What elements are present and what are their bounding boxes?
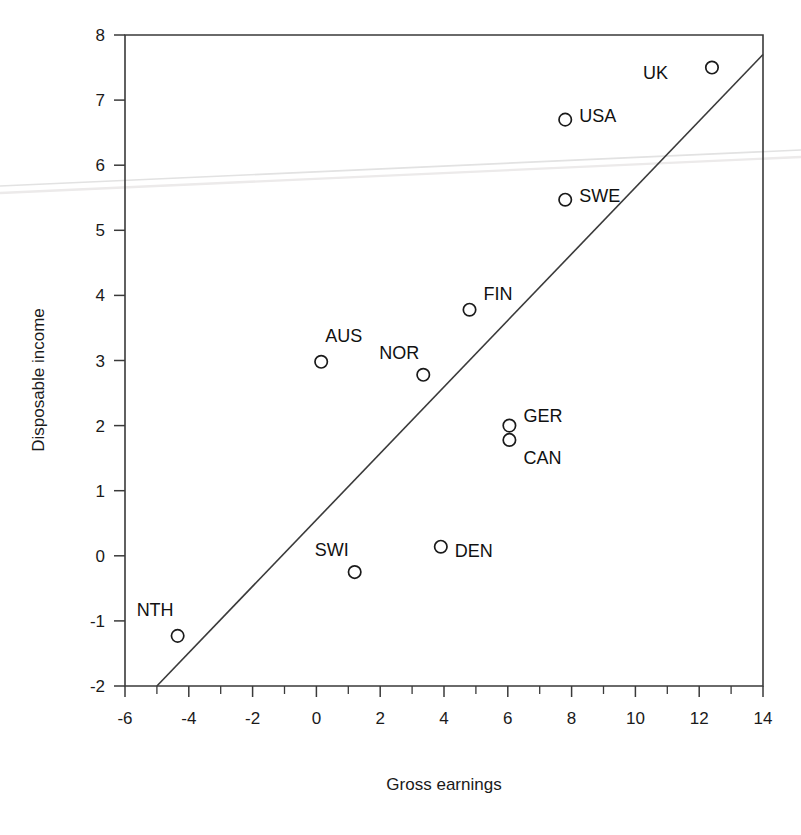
data-point-marker: [706, 61, 718, 73]
chart-canvas: -6-4-202468101214 -2-1012345678 UKUSASWE…: [0, 0, 801, 835]
data-point: FIN: [463, 284, 512, 316]
data-point-marker: [463, 304, 475, 316]
data-point-marker: [315, 356, 327, 368]
x-tick-label: 6: [503, 709, 512, 728]
data-point-marker: [559, 113, 571, 125]
x-tick-label: 8: [567, 709, 576, 728]
scan-crease-artifact: [0, 150, 801, 193]
y-tick-label: 5: [96, 221, 105, 240]
data-point-label: AUS: [325, 326, 362, 346]
y-tick-label: 2: [96, 417, 105, 436]
y-tick-label: 4: [96, 286, 105, 305]
data-point: AUS: [315, 326, 362, 368]
data-point-marker: [503, 419, 515, 431]
scatter-plot-figure: -6-4-202468101214 -2-1012345678 UKUSASWE…: [0, 0, 801, 835]
data-point-label: CAN: [523, 448, 561, 468]
data-point-marker: [559, 194, 571, 206]
data-point-marker: [435, 540, 447, 552]
data-point: GER: [503, 406, 562, 432]
data-point-label: SWE: [579, 186, 620, 206]
data-point-label: USA: [579, 106, 616, 126]
x-tick-label: 10: [626, 709, 645, 728]
data-point: USA: [559, 106, 616, 126]
y-tick-label: -2: [90, 677, 105, 696]
x-tick-label: 12: [690, 709, 709, 728]
data-point-label: NOR: [379, 343, 419, 363]
y-tick-label: 0: [96, 547, 105, 566]
data-point-label: FIN: [484, 284, 513, 304]
y-tick-label: 8: [96, 26, 105, 45]
data-point: SWE: [559, 186, 620, 206]
data-point-label: GER: [523, 406, 562, 426]
x-tick-label: -4: [181, 709, 196, 728]
data-points: UKUSASWEFINAUSNORGERCANDENSWINTH: [137, 61, 719, 642]
data-point-label: DEN: [455, 541, 493, 561]
x-tick-label: 4: [439, 709, 448, 728]
data-point-marker: [171, 630, 183, 642]
data-point-label: UK: [643, 63, 668, 83]
data-point: NOR: [379, 343, 429, 381]
y-axis-tick-labels: -2-1012345678: [90, 26, 105, 696]
data-point: SWI: [315, 540, 361, 578]
data-point-marker: [417, 369, 429, 381]
data-point: CAN: [503, 434, 561, 468]
data-point-label: NTH: [137, 600, 174, 620]
y-tick-label: 3: [96, 352, 105, 371]
y-tick-label: 6: [96, 156, 105, 175]
data-point: DEN: [435, 540, 493, 560]
x-axis-tick-labels: -6-4-202468101214: [117, 709, 772, 728]
x-tick-label: -2: [245, 709, 260, 728]
y-axis-title: Disposable income: [29, 308, 48, 452]
y-axis-ticks: [114, 35, 125, 686]
data-point: UK: [643, 61, 718, 82]
x-axis-ticks: [125, 686, 763, 697]
x-tick-label: 14: [754, 709, 773, 728]
x-axis-title: Gross earnings: [386, 775, 501, 794]
data-point: NTH: [137, 600, 184, 642]
x-tick-label: 2: [375, 709, 384, 728]
y-tick-label: 1: [96, 482, 105, 501]
x-tick-label: 0: [312, 709, 321, 728]
y-tick-label: -1: [90, 612, 105, 631]
y-tick-label: 7: [96, 91, 105, 110]
plot-frame: [125, 35, 763, 686]
trend-line: [157, 55, 763, 686]
data-point-marker: [503, 434, 515, 446]
x-tick-label: -6: [117, 709, 132, 728]
data-point-label: SWI: [315, 540, 349, 560]
data-point-marker: [348, 566, 360, 578]
